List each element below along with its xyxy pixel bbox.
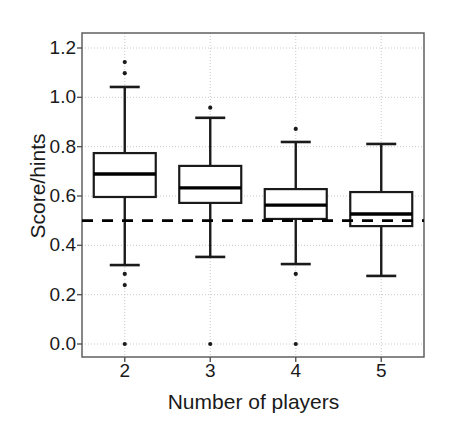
outlier-point — [208, 342, 212, 346]
plot-area — [0, 0, 449, 424]
outlier-point — [294, 342, 298, 346]
outlier-point — [123, 272, 127, 276]
outlier-point — [123, 60, 127, 64]
outlier-point — [123, 342, 127, 346]
box-iqr — [179, 166, 241, 203]
outlier-point — [123, 283, 127, 287]
outlier-point — [294, 272, 298, 276]
box-plot-figure: Score/hints 0.00.20.40.60.81.01.2 2345 N… — [0, 0, 449, 424]
outlier-point — [208, 106, 212, 110]
outlier-point — [123, 71, 127, 75]
outlier-point — [294, 127, 298, 131]
